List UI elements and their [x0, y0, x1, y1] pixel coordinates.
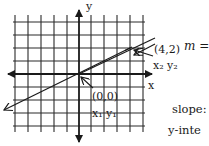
p2-label: (4,2): [154, 43, 180, 56]
origin-label: (0,0): [92, 90, 118, 103]
origin-subscript-label: x₁ y₁: [92, 107, 117, 120]
x-axis-label: x: [148, 79, 155, 92]
y-axis-label: y: [85, 0, 93, 13]
slope-formula-label: m =: [184, 40, 209, 52]
p2-subscript-label: x₂ y₂: [153, 59, 178, 72]
slope-label: slope:: [172, 104, 207, 116]
y-intercept-label: y-inte: [168, 125, 201, 137]
